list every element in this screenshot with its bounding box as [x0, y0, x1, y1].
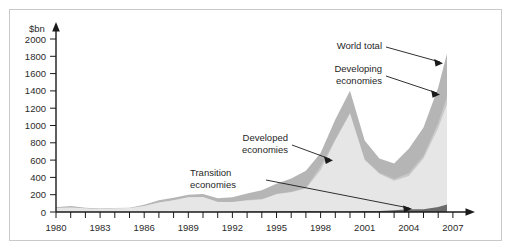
x-tick-label-1980: 1980 — [36, 222, 76, 233]
annotation-developing-line1: Developing — [306, 63, 382, 75]
y-tick-label-1600: 1600 — [12, 68, 46, 79]
x-tick-label-1995: 1995 — [257, 222, 297, 233]
developing-leader — [386, 76, 437, 93]
x-tick-label-2001: 2001 — [345, 222, 385, 233]
annotation-developed-line2: economies — [212, 144, 288, 156]
x-tick-label-1983: 1983 — [80, 222, 120, 233]
x-tick-label-1992: 1992 — [212, 222, 252, 233]
y-tick-label-1800: 1800 — [12, 51, 46, 62]
chart-canvas — [0, 0, 513, 252]
y-axis — [50, 22, 60, 212]
x-tick-label-2007: 2007 — [433, 222, 473, 233]
annotation-developing-line2: economies — [306, 75, 382, 87]
y-tick-label-200: 200 — [12, 189, 46, 200]
y-axis-ticks — [50, 39, 56, 212]
y-tick-label-800: 800 — [12, 137, 46, 148]
annotation-developed-economies: Developed economies — [212, 132, 288, 155]
y-tick-label-1400: 1400 — [12, 85, 46, 96]
x-tick-label-1989: 1989 — [168, 222, 208, 233]
y-tick-label-1000: 1000 — [12, 120, 46, 131]
annotation-world-total-text: World total — [337, 40, 382, 51]
x-tick-label-1986: 1986 — [124, 222, 164, 233]
annotation-transition-economies: Transition economies — [190, 167, 266, 190]
y-tick-label-1200: 1200 — [12, 103, 46, 114]
x-tick-label-2004: 2004 — [389, 222, 429, 233]
world-total-leader — [386, 47, 440, 62]
y-tick-label-0: 0 — [12, 207, 46, 218]
x-axis-ticks — [56, 212, 453, 218]
y-tick-label-400: 400 — [12, 172, 46, 183]
annotation-world-total: World total — [306, 40, 382, 52]
annotation-developing-economies: Developing economies — [306, 63, 382, 86]
annotation-developed-line1: Developed — [212, 132, 288, 144]
y-tick-label-600: 600 — [12, 155, 46, 166]
chart-figure: $bn 2000 1800 1600 1400 1200 1000 800 60… — [0, 0, 513, 252]
annotation-transition-line1: Transition — [190, 167, 266, 179]
annotation-transition-line2: economies — [190, 179, 266, 191]
y-axis-unit-label: $bn — [29, 23, 45, 34]
x-tick-label-1998: 1998 — [301, 222, 341, 233]
y-tick-label-2000: 2000 — [12, 34, 46, 45]
